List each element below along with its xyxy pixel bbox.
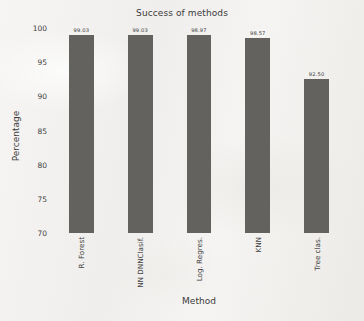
bar-value-label: 98.97: [187, 27, 212, 33]
bar-group: 98.57KNN: [245, 28, 270, 233]
y-axis-tick-80: 80: [37, 160, 47, 169]
x-axis-tick-label: KNN: [253, 237, 262, 252]
y-axis-tick-100: 100: [33, 24, 47, 33]
bar-group: 99.03NN DNNClasif.: [128, 28, 153, 233]
bar-group: 98.97Log. Regres.: [187, 28, 212, 233]
x-axis-tick-label: Tree clas.: [312, 237, 321, 271]
bar-knn[interactable]: [245, 38, 270, 233]
bar-value-label: 98.57: [245, 30, 270, 36]
bar-nn-dnnclasif[interactable]: [128, 35, 153, 233]
bar-value-label: 99.03: [69, 27, 94, 33]
y-axis-tick-75: 75: [37, 194, 47, 203]
bar-value-label: 92.50: [304, 71, 329, 77]
x-axis-tick-label: R. Forest: [77, 237, 86, 268]
bar-r-forest[interactable]: [69, 35, 94, 233]
bar-log-regres[interactable]: [187, 35, 212, 233]
bar-chart-figure: Success of methods Percentage 1009590858…: [0, 0, 364, 321]
bar-series: 99.03R. Forest99.03NN DNNClasif.98.97Log…: [52, 28, 346, 233]
y-axis-tick-70: 70: [37, 229, 47, 238]
plot-area: Percentage 100959085807570 99.03R. Fores…: [52, 28, 346, 233]
y-axis-label: Percentage: [11, 76, 21, 196]
y-axis-tick-85: 85: [37, 126, 47, 135]
x-axis-tick-label: NN DNNClasif.: [136, 237, 145, 288]
bar-group: 99.03R. Forest: [69, 28, 94, 233]
bar-value-label: 99.03: [128, 27, 153, 33]
bar-tree-clas[interactable]: [304, 79, 329, 233]
y-axis-tick-95: 95: [37, 58, 47, 67]
chart-title: Success of methods: [0, 8, 364, 18]
bar-group: 92.50Tree clas.: [304, 28, 329, 233]
x-axis-tick-label: Log. Regres.: [194, 237, 203, 281]
y-axis-tick-90: 90: [37, 92, 47, 101]
x-axis-label: Method: [52, 296, 346, 306]
